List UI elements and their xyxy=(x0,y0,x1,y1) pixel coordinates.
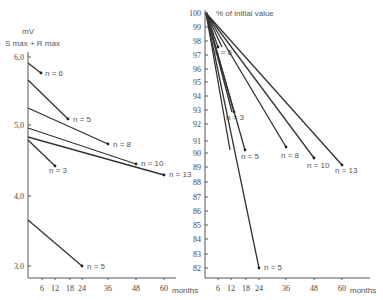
series-endpoint xyxy=(285,146,288,149)
y-tick-label: 6,0 xyxy=(14,53,24,62)
right-title: % of initial value xyxy=(216,9,274,18)
x-tick-label: 60 xyxy=(160,284,168,293)
series-label: n = 8 xyxy=(113,140,132,149)
y-tick-label: 86 xyxy=(193,207,201,216)
x-tick-label: 60 xyxy=(338,284,346,293)
series-label: n = 6 xyxy=(45,69,64,78)
y-tick-label: 95 xyxy=(193,78,201,87)
y-tick-label: 88 xyxy=(193,178,201,187)
series-line xyxy=(206,13,259,268)
x-tick-label: 48 xyxy=(132,284,140,293)
series-label: n = 10 xyxy=(141,159,164,168)
x-tick-label: 6 xyxy=(40,284,44,293)
x-tick-label: 36 xyxy=(104,284,112,293)
left-x-ticks: 6121824364860 xyxy=(40,278,168,293)
x-tick-label: 12 xyxy=(227,284,235,293)
y-tick-label: 99 xyxy=(193,23,201,32)
x-tick-label: 6 xyxy=(216,284,220,293)
y-tick-label: 100 xyxy=(189,9,201,18)
series-label: n = 8 xyxy=(281,151,300,160)
x-tick-label: 36 xyxy=(282,284,290,293)
series-line xyxy=(28,63,41,73)
series-endpoint xyxy=(135,163,138,166)
x-tick-label: 18 xyxy=(242,284,250,293)
right-panel: % of initial value 100999897969594939291… xyxy=(189,9,376,295)
y-tick-label: 92 xyxy=(193,120,201,129)
right-x-ticks: 6121824364860 xyxy=(216,278,346,293)
y-tick-label: 3,0 xyxy=(14,262,24,271)
series-label: n = 5 xyxy=(241,152,260,161)
series-endpoint xyxy=(258,267,261,270)
left-panel: mV S max + R max 6,05,04,03,0 6121824364… xyxy=(5,27,198,295)
series-endpoint xyxy=(244,149,247,152)
y-tick-label: 87 xyxy=(193,193,201,202)
series-endpoint xyxy=(81,265,84,268)
series-endpoint xyxy=(313,157,316,160)
chart-figure: mV S max + R max 6,05,04,03,0 6121824364… xyxy=(0,0,383,300)
series-label: n = 13 xyxy=(169,170,192,179)
x-tick-label: 12 xyxy=(51,284,59,293)
y-tick-label: 98 xyxy=(193,37,201,46)
y-tick-label: 4,0 xyxy=(14,192,24,201)
y-tick-label: 96 xyxy=(193,65,201,74)
series-label: n = 13 xyxy=(335,166,358,175)
y-tick-label: 91 xyxy=(193,137,201,146)
series-label: n = 5 xyxy=(264,263,283,272)
series-endpoint xyxy=(67,118,70,121)
y-tick-label: 5,0 xyxy=(14,121,24,130)
series-line xyxy=(28,80,68,119)
y-tick-label: 90 xyxy=(193,149,201,158)
right-x-axis-label: months xyxy=(350,286,376,295)
x-tick-label: 24 xyxy=(78,284,86,293)
x-tick-label: 48 xyxy=(310,284,318,293)
x-tick-label: 24 xyxy=(255,284,263,293)
x-tick-label: 18 xyxy=(66,284,74,293)
y-tick-label: 82 xyxy=(193,264,201,273)
y-tick-label: 89 xyxy=(193,163,201,172)
series-label: n = 5 xyxy=(87,262,106,271)
y-tick-label: 84 xyxy=(193,235,201,244)
y-tick-label: 83 xyxy=(193,250,201,259)
series-endpoint xyxy=(107,143,110,146)
series-label: n = 10 xyxy=(307,161,330,170)
y-tick-label: 85 xyxy=(193,221,201,230)
series-label: n = 5 xyxy=(73,115,92,124)
series-endpoint xyxy=(163,174,166,177)
left-y-axis-label: S max + R max xyxy=(5,39,60,48)
series-endpoint xyxy=(40,72,43,75)
left-x-axis-label: months xyxy=(172,286,198,295)
series-line xyxy=(28,108,108,144)
series-line xyxy=(206,13,245,150)
series-line xyxy=(28,220,82,266)
y-tick-label: 93 xyxy=(193,106,201,115)
left-unit-label: mV xyxy=(22,27,35,36)
left-series-lines: n = 6n = 5n = 8n = 10n = 13n = 3n = 5 xyxy=(28,63,192,271)
y-tick-label: 97 xyxy=(193,51,201,60)
y-tick-label: 94 xyxy=(193,92,201,101)
series-line xyxy=(206,13,314,158)
series-label: n = 3 xyxy=(49,166,68,175)
